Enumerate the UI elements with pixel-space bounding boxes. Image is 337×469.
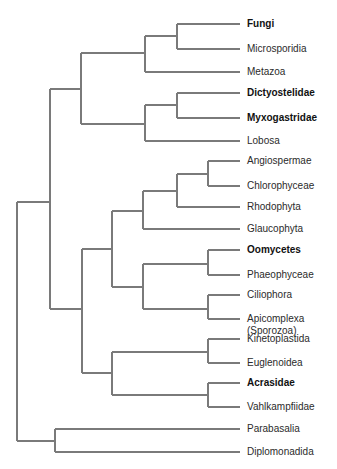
leaf-label-myxogastridae: Myxogastridae xyxy=(247,112,317,124)
leaf-label-vahlkampfiidae: Vahlkampfiidae xyxy=(247,401,315,413)
leaf-label-rhodophyta: Rhodophyta xyxy=(247,201,301,213)
leaf-label-oomycetes: Oomycetes xyxy=(247,244,301,256)
leaf-label-parabasalia: Parabasalia xyxy=(247,423,300,435)
leaf-label-angiospermae: Angiospermae xyxy=(247,155,311,167)
leaf-label-lobosa: Lobosa xyxy=(247,135,280,147)
leaf-label-glaucophyta: Glaucophyta xyxy=(247,223,303,235)
leaf-label-kinetoplastida: Kinetoplastida xyxy=(247,333,310,345)
leaf-label-metazoa: Metazoa xyxy=(247,66,285,78)
leaf-label-ciliophora: Ciliophora xyxy=(247,289,292,301)
leaf-label-chlorophyceae: Chlorophyceae xyxy=(247,180,314,192)
leaf-label-phaeophyceae: Phaeophyceae xyxy=(247,269,314,281)
leaf-label-microsporidia: Microsporidia xyxy=(247,43,306,55)
leaf-label-euglenoidea: Euglenoidea xyxy=(247,357,303,369)
leaf-label-dictyostelidae: Dictyostelidae xyxy=(247,87,315,99)
leaf-label-acrasidae: Acrasidae xyxy=(247,377,295,389)
leaf-label-fungi: Fungi xyxy=(247,18,274,30)
leaf-label-diplomonadida: Diplomonadida xyxy=(247,446,314,458)
